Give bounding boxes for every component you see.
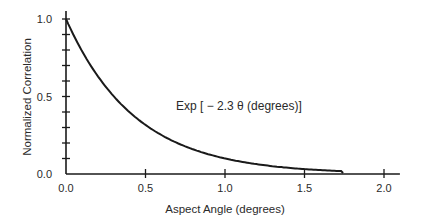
x-tick-label: 2.0 — [376, 182, 391, 194]
y-axis-title: Normalized Correlation — [21, 38, 33, 156]
x-tick-label: 0.5 — [138, 182, 153, 194]
axes — [66, 11, 400, 174]
x-tick-label: 0.0 — [58, 182, 73, 194]
curve-annotation: Exp [ − 2.3 θ (degrees)] — [176, 99, 302, 113]
x-axis-title: Aspect Angle (degrees) — [165, 203, 285, 215]
x-tick-label: 1.0 — [217, 182, 232, 194]
correlation-curve — [66, 19, 343, 173]
x-tick-label: 1.5 — [297, 182, 312, 194]
y-tick-label: 1.0 — [37, 13, 52, 25]
y-tick-label: 0.0 — [37, 168, 52, 180]
y-tick-label: 0.5 — [37, 91, 52, 103]
chart: 0.00.51.00.00.51.01.52.0 Exp [ − 2.3 θ (… — [0, 0, 424, 224]
